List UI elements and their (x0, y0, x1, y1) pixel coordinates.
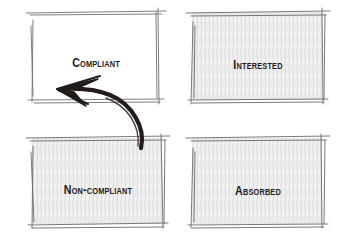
sketch-frame-icon (188, 130, 328, 230)
quadrant-compliant: Compliant (28, 6, 164, 106)
sketch-frame-icon (188, 6, 328, 106)
quadrant-label-compliant: Compliant (40, 56, 152, 69)
quadrant-absorbed: Absorbed (188, 130, 328, 230)
quadrant-label-interested: Interested (201, 58, 316, 71)
quadrant-label-absorbed: Absorbed (201, 184, 316, 197)
quadrant-label-noncompliant: Non-compliant (41, 183, 156, 196)
quadrant-noncompliant: Non-compliant (28, 130, 168, 230)
quadrant-interested: Interested (188, 6, 328, 106)
sketch-frame-icon (28, 130, 168, 230)
